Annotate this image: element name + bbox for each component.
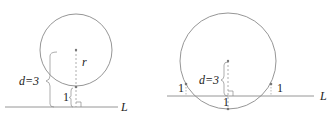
right-distance-brace <box>221 62 228 96</box>
right-gap-left-label: 1 <box>178 81 184 95</box>
left-gap-label: 1 <box>63 90 69 104</box>
right-gap-right-label: 1 <box>277 81 283 95</box>
right-distance-label: d=3 <box>199 73 219 87</box>
left-gap-brace <box>69 88 73 107</box>
left-center-point <box>75 49 77 51</box>
right-gap-bottom-label: 1 <box>223 95 229 109</box>
right-left-point <box>185 83 188 86</box>
right-line-label: L <box>319 89 327 103</box>
left-radius-label: r <box>82 55 87 69</box>
left-line-label: L <box>120 100 128 114</box>
right-figure: d=3 1 1 1 L <box>167 13 327 110</box>
left-distance-label: d=3 <box>19 74 39 88</box>
left-figure: r 1 d=3 L <box>5 14 128 114</box>
left-bottom-point <box>75 86 78 89</box>
diagram-canvas: r 1 d=3 L d=3 1 1 1 L <box>0 0 334 116</box>
right-right-point <box>270 83 273 86</box>
left-right-angle-mark <box>76 102 81 107</box>
